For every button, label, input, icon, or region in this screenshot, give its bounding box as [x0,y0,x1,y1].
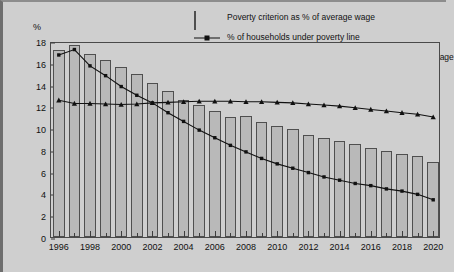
square-marker [338,179,341,182]
square-marker [322,175,325,178]
y-axis-tick-label: 4 [41,190,46,200]
square-marker [307,171,310,174]
x-axis-tick [340,231,341,237]
x-axis-tick-label: 2012 [298,242,318,252]
line-series-layer [51,43,441,239]
x-axis-tick [152,231,153,237]
square-marker [369,184,372,187]
x-axis-tick-label: 2014 [330,242,350,252]
y-axis-tick-label: 6 [41,169,46,179]
x-axis-tick-label: 2018 [392,242,412,252]
square-marker [385,187,388,190]
y-axis-tick-label: 12 [36,103,46,113]
square-marker [213,136,216,139]
square-marker [104,74,107,77]
x-axis-tick-label: 1998 [80,242,100,252]
square-marker [88,64,91,67]
x-axis-tick [386,233,387,237]
square-marker [135,94,138,97]
square-marker [260,157,263,160]
x-axis-tick-label: 2000 [111,242,131,252]
x-axis-tick [74,233,75,237]
x-axis-tick [199,233,200,237]
x-axis-tick [293,233,294,237]
x-axis-tick [121,231,122,237]
square-marker [416,193,419,196]
x-axis-tick [355,233,356,237]
x-axis-tick [308,231,309,237]
x-axis-tick [137,233,138,237]
square-marker [432,198,435,201]
legend-label: % of households under poverty line [227,33,360,42]
y-axis-tick-label: 16 [36,60,46,70]
y-axis-tick-label: 2 [41,212,46,222]
x-axis-tick [59,231,60,237]
x-axis-tick [90,231,91,237]
x-axis-tick-label: 2006 [205,242,225,252]
x-axis-tick [168,233,169,237]
x-axis-tick [418,233,419,237]
square-marker [182,120,185,123]
x-axis-tick [402,231,403,237]
legend-label: Poverty criterion as % of average wage [227,13,375,22]
x-axis-tick [324,233,325,237]
x-axis-tick-label: 2004 [174,242,194,252]
y-axis-tick-label: 18 [36,38,46,48]
legend-item-poverty-criterion: Poverty criterion as % of average wage [194,12,454,23]
x-axis-tick [277,231,278,237]
x-axis-tick [262,233,263,237]
y-axis-tick-label: 8 [41,147,46,157]
square-marker [291,167,294,170]
y-axis-unit-label: % [33,22,41,32]
x-axis-tick-label: 2002 [142,242,162,252]
square-marker [57,53,60,56]
square-marker [354,182,357,185]
line-path [59,50,433,200]
square-marker [276,162,279,165]
x-axis-tick [433,231,434,237]
triangle-marker [56,98,61,103]
square-marker [229,144,232,147]
x-axis-tick-label: 2010 [267,242,287,252]
x-axis-tick-label: 1996 [49,242,69,252]
y-axis-tick-label: 0 [41,234,46,244]
y-axis-tick-label: 14 [36,82,46,92]
x-axis-tick-label: 2020 [423,242,443,252]
square-marker [198,128,201,131]
legend-bar-swatch-icon [194,12,220,23]
x-axis-tick [371,231,372,237]
x-axis-tick [184,231,185,237]
x-axis-tick [215,231,216,237]
x-axis-tick [230,233,231,237]
x-axis-tick [246,231,247,237]
y-axis-tick-label: 10 [36,125,46,135]
x-axis-tick-label: 2008 [236,242,256,252]
square-marker [244,150,247,153]
plot-area: 024681012141618 199619982000200220042006… [50,42,440,238]
x-axis-tick [106,233,107,237]
square-marker [73,48,76,51]
square-marker [400,189,403,192]
square-marker [120,85,123,88]
x-axis-tick-label: 2016 [361,242,381,252]
square-marker [166,111,169,114]
chart-figure: % Poverty criterion as % of average wage… [9,6,443,268]
